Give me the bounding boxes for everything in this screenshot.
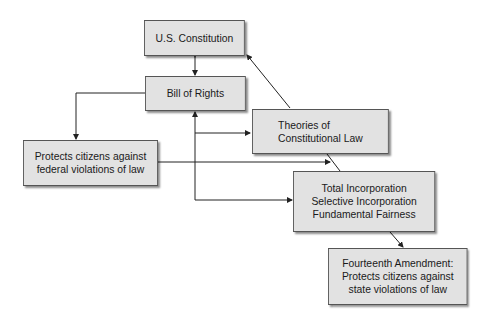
node-label: Bill of Rights xyxy=(167,87,225,100)
node-theories-of-constitutional-law: Theories of Constitutional Law xyxy=(252,109,389,154)
bill-to-federal-arrow xyxy=(76,93,146,139)
incorporation-to-fourteenth-arrow xyxy=(390,232,403,247)
node-label: Theories of Constitutional Law xyxy=(278,119,363,145)
node-label: Total Incorporation Selective Incorporat… xyxy=(311,182,416,221)
node-label: Fourteenth Amendment: Protects citizens … xyxy=(342,257,454,296)
node-label: U.S. Constitution xyxy=(156,32,234,45)
theories-to-constitution-arrow xyxy=(247,55,290,108)
node-federal-protection: Protects citizens against federal violat… xyxy=(23,140,158,186)
node-fourteenth-amendment: Fourteenth Amendment: Protects citizens … xyxy=(328,248,468,305)
node-incorporation-doctrines: Total Incorporation Selective Incorporat… xyxy=(293,171,435,232)
node-us-constitution: U.S. Constitution xyxy=(144,20,245,56)
node-label: Protects citizens against federal violat… xyxy=(35,150,147,176)
node-bill-of-rights: Bill of Rights xyxy=(145,76,246,111)
